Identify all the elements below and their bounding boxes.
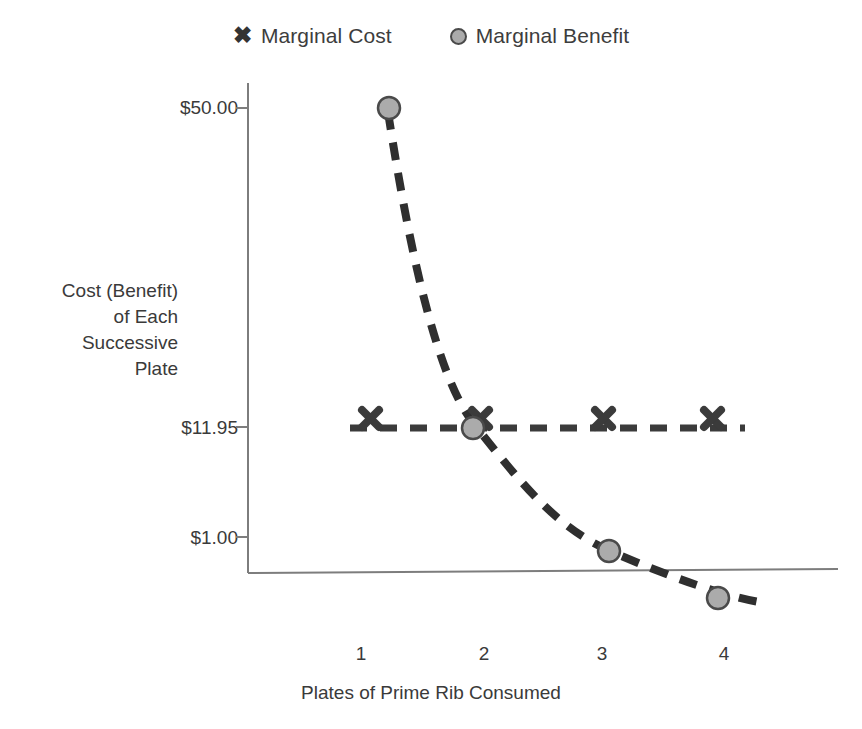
benefit-marker-plate-2: [462, 417, 484, 439]
benefit-marker-plate-1: [378, 97, 400, 119]
marginal-cost-markers: [362, 410, 721, 427]
benefit-marker-plate-4: [707, 587, 729, 609]
cost-marker-plate-4: [704, 410, 721, 427]
benefit-marker-plate-3: [598, 540, 620, 562]
x-axis-line: [248, 569, 838, 573]
marginal-benefit-markers: [378, 97, 729, 609]
chart-container: ✖ Marginal Cost Marginal Benefit Cost (B…: [0, 0, 862, 729]
plot-area: [0, 0, 862, 729]
marginal-benefit-curve: [388, 112, 765, 603]
cost-marker-plate-3: [595, 410, 612, 427]
cost-marker-plate-1: [362, 410, 379, 427]
